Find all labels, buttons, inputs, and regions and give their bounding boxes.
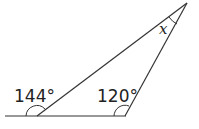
angle-arc-144 bbox=[26, 106, 45, 116]
triangle-diagram: 144° 120° x bbox=[0, 0, 199, 129]
label-120: 120° bbox=[97, 86, 138, 106]
label-x: x bbox=[159, 20, 168, 38]
angle-arc-x bbox=[169, 17, 177, 24]
label-144: 144° bbox=[14, 86, 55, 106]
angle-arc-120 bbox=[114, 105, 129, 116]
